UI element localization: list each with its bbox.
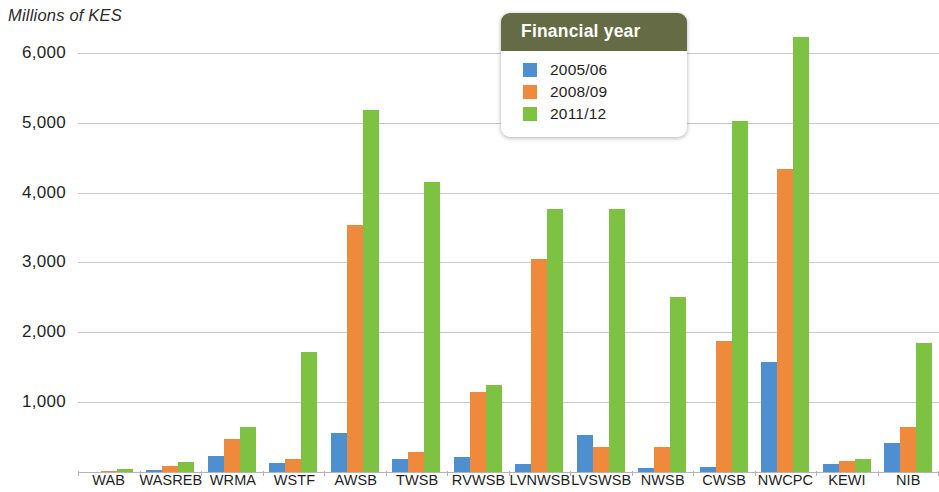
- bar-group: [447, 18, 509, 472]
- bar: [839, 461, 855, 472]
- x-axis-label: NWSB: [632, 472, 693, 492]
- bar: [900, 427, 916, 472]
- bar: [716, 341, 732, 472]
- y-axis-tick-label: 1,000: [22, 392, 66, 412]
- bar: [547, 209, 563, 472]
- bar-group: [816, 18, 878, 472]
- y-axis-tick-label: 6,000: [22, 43, 66, 63]
- bar: [793, 37, 809, 472]
- bar: [761, 362, 777, 472]
- bar-group: [324, 18, 386, 472]
- x-axis-label: NIB: [878, 472, 939, 492]
- legend-items: 2005/062008/092011/12: [501, 51, 687, 137]
- bar: [670, 297, 686, 472]
- bar: [593, 447, 609, 472]
- x-axis-label: WASREB: [139, 472, 202, 492]
- bar-chart: Millions of KES 6,0005,0004,0003,0002,00…: [0, 0, 939, 492]
- bar-group: [140, 18, 202, 472]
- legend-item-label: 2011/12: [550, 105, 606, 123]
- bar-group: [693, 18, 755, 472]
- bar-group: [78, 18, 140, 472]
- y-axis-tick-label: 5,000: [22, 112, 66, 132]
- legend-swatch-icon: [523, 63, 537, 77]
- bar: [331, 433, 347, 472]
- bar: [224, 439, 240, 472]
- x-axis-label: CWSB: [693, 472, 754, 492]
- bar: [916, 343, 932, 472]
- legend-swatch-icon: [523, 107, 537, 121]
- x-axis-label: NWCPC: [755, 472, 816, 492]
- x-axis-label: LVNWSB: [509, 472, 570, 492]
- bar: [301, 352, 317, 472]
- bar: [609, 209, 625, 472]
- x-axis-labels: WABWASREBWRMAWSTFAWSBTWSBRVWSBLVNWSBLVSW…: [78, 472, 939, 492]
- bar: [855, 459, 871, 472]
- legend-swatch-icon: [523, 85, 537, 99]
- bar: [654, 447, 670, 472]
- legend-item[interactable]: 2008/09: [501, 81, 687, 103]
- bar: [347, 225, 363, 472]
- bar: [424, 182, 440, 472]
- bar: [208, 456, 224, 472]
- y-axis-tick-label: 2,000: [22, 322, 66, 342]
- bar: [240, 427, 256, 472]
- bar: [884, 443, 900, 472]
- bar: [577, 435, 593, 472]
- bar: [454, 457, 470, 472]
- bar-group: [263, 18, 325, 472]
- bar: [777, 169, 793, 472]
- x-axis-label: TWSB: [386, 472, 447, 492]
- bar: [515, 464, 531, 472]
- bar-group: [201, 18, 263, 472]
- x-axis-label: KEWI: [816, 472, 877, 492]
- bar-group: [386, 18, 448, 472]
- bar: [178, 462, 194, 472]
- y-axis-tick-label: 3,000: [22, 252, 66, 272]
- x-axis-label: AWSB: [325, 472, 386, 492]
- bar: [470, 392, 486, 472]
- bar: [531, 259, 547, 472]
- bar: [486, 385, 502, 472]
- x-axis-label: WSTF: [264, 472, 325, 492]
- legend-title: Financial year: [501, 13, 687, 51]
- bar: [269, 463, 285, 472]
- bar: [732, 121, 748, 472]
- legend-item-label: 2005/06: [550, 61, 607, 79]
- legend-item[interactable]: 2005/06: [501, 59, 687, 81]
- y-axis-tick-label: 4,000: [22, 182, 66, 202]
- bar-group: [755, 18, 817, 472]
- legend-item[interactable]: 2011/12: [501, 103, 687, 125]
- x-axis-label: WAB: [78, 472, 139, 492]
- x-axis-label: WRMA: [202, 472, 263, 492]
- bar: [408, 452, 424, 472]
- bar: [823, 464, 839, 472]
- x-axis-label: LVSWSB: [571, 472, 632, 492]
- legend-item-label: 2008/09: [550, 83, 607, 101]
- x-axis-label: RVWSB: [448, 472, 509, 492]
- bar: [285, 459, 301, 472]
- bar-group: [878, 18, 939, 472]
- legend: Financial year 2005/062008/092011/12: [501, 13, 687, 137]
- bar: [363, 110, 379, 472]
- bar: [392, 459, 408, 472]
